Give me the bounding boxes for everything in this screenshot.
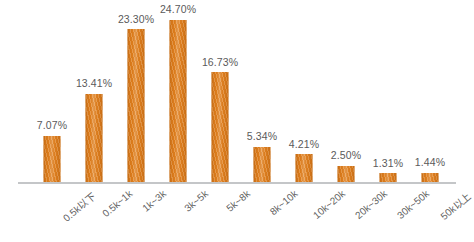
bar[interactable] (254, 147, 271, 182)
bar[interactable] (44, 136, 61, 182)
x-axis-label-slot: 5k~8k (200, 186, 240, 242)
bar[interactable] (296, 154, 313, 182)
bar-series: 7.07% 13.41% 23.30% 24.70% 16.73% 5.34% (18, 8, 456, 182)
bar-slot: 5.34% (242, 8, 282, 182)
bar-value-label: 16.73% (202, 56, 238, 68)
x-axis-label-slot: 30k~50k (368, 186, 408, 242)
bar-value-label: 13.41% (76, 77, 112, 89)
bar[interactable] (212, 72, 229, 182)
x-axis-label-slot: 50k以上 (410, 186, 450, 242)
x-axis-label-slot: 8k~10k (242, 186, 282, 242)
bar-value-label: 1.31% (373, 157, 403, 169)
x-axis-line (18, 182, 456, 184)
bar[interactable] (380, 173, 397, 182)
x-axis-label-slot: 20k~30k (326, 186, 366, 242)
x-axis-label-slot: 0.5k以下 (32, 186, 72, 242)
bar-slot: 16.73% (200, 8, 240, 182)
bar-value-label: 24.70% (160, 3, 196, 15)
bar[interactable] (170, 20, 187, 182)
bar-slot: 24.70% (158, 8, 198, 182)
bar[interactable] (422, 173, 439, 182)
bar-slot: 23.30% (116, 8, 156, 182)
bar-slot: 1.44% (410, 8, 450, 182)
bar-value-label: 7.07% (37, 119, 67, 131)
bar-value-label: 2.50% (331, 149, 361, 161)
bar-slot: 1.31% (368, 8, 408, 182)
bar-slot: 4.21% (284, 8, 324, 182)
bar[interactable] (338, 166, 355, 182)
bar-value-label: 23.30% (118, 13, 154, 25)
bar-value-label: 1.44% (415, 156, 445, 168)
x-axis-label-slot: 0.5k~1k (74, 186, 114, 242)
bar-value-label: 5.34% (247, 130, 277, 142)
bar-slot: 13.41% (74, 8, 114, 182)
x-axis-label-slot: 10k~20k (284, 186, 324, 242)
x-axis-label-slot: 1k~3k (116, 186, 156, 242)
bar-value-label: 4.21% (289, 138, 319, 150)
x-axis-label-slot: 3k~5k (158, 186, 198, 242)
bar-slot: 2.50% (326, 8, 366, 182)
bar[interactable] (128, 29, 145, 182)
bar-slot: 7.07% (32, 8, 72, 182)
x-axis-tick-label: 50k以上 (436, 188, 473, 223)
bar[interactable] (86, 94, 103, 182)
x-axis-labels: 0.5k以下 0.5k~1k 1k~3k 3k~5k 5k~8k 8k~10k … (18, 186, 456, 242)
plot-area: 7.07% 13.41% 23.30% 24.70% 16.73% 5.34% (18, 8, 456, 184)
